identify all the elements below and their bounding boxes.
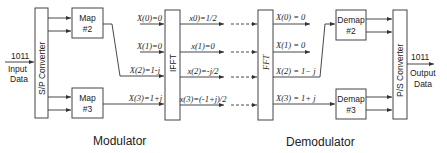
demodulator-section-label: Demodulator [286, 135, 355, 149]
input-label-line2: Data [10, 74, 28, 84]
map2-label-line2: #2 [83, 24, 93, 34]
map3-label-line1: Map [79, 93, 96, 103]
ifft-input-3-label: X(3)=1+j [128, 93, 163, 103]
sp-converter-label: S/P Converter [37, 42, 47, 95]
fft-output-2-label: X(2) = 1− j [275, 66, 316, 76]
fft-output-0-label: X(0) = 0 [275, 12, 306, 22]
output-label-line2: Data [414, 79, 432, 89]
ifft-output-3-label: x(3)=(-1+j)/2 [179, 94, 228, 104]
input-label-line1: Input [8, 64, 28, 74]
fft-output-3-label: X(3) = 1+ j [275, 93, 316, 103]
fft-output-1-label: X(1) = 0 [275, 40, 306, 50]
ps-converter-label: P/S Converter [395, 43, 405, 97]
demap2-label-line2: #2 [346, 26, 356, 36]
demap2-label-line1: Demap [337, 15, 365, 25]
map3-label-line2: #3 [83, 104, 93, 114]
ifft-label: IFFT [168, 54, 178, 72]
map2-label-line1: Map [79, 13, 96, 23]
ofdm-diagram: 1011 Input Data S/P Converter Map #2 Map… [0, 0, 447, 153]
output-bits: 1011 [411, 52, 430, 62]
fft-label: FFT [261, 54, 271, 71]
modulator-section-label: Modulator [93, 134, 146, 148]
output-label-line1: Output [410, 68, 436, 78]
ifft-output-0-label: x0)=1/2 [188, 13, 217, 23]
ifft-output-1-label: x(1)=0 [190, 41, 215, 51]
ifft-output-2-label: x(2)=-j/2 [186, 66, 219, 76]
demap3-label-line1: Demap [337, 94, 365, 104]
ifft-input-2-label: X(2)=1-j [129, 65, 161, 75]
ifft-input-0-label: X(0)=0 [136, 13, 163, 23]
ifft-input-1-label: X(1)=0 [136, 41, 163, 51]
input-bits: 1011 [11, 51, 30, 61]
demap3-label-line2: #3 [346, 105, 356, 115]
